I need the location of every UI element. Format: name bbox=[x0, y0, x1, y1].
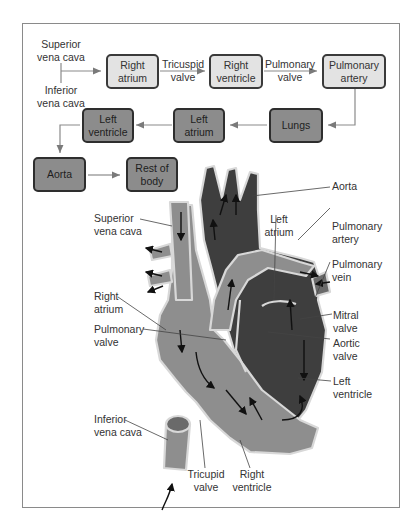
label-left-ventricle: Left ventricle bbox=[333, 375, 372, 400]
label-aortic-valve: Aortic valve bbox=[333, 337, 360, 362]
label-left-atrium: Left atrium bbox=[262, 213, 296, 238]
label-inferior-vena-cava: Inferior vena cava bbox=[94, 413, 142, 438]
label-pulmonary-artery: Pulmonary artery bbox=[332, 220, 382, 245]
label-right-ventricle: Right ventricle bbox=[230, 468, 274, 493]
label-superior-vena-cava: Superior vena cava bbox=[94, 212, 142, 237]
label-pulmonary-valve: Pulmonary valve bbox=[94, 323, 144, 348]
label-tricuspid-valve: Tricupid valve bbox=[184, 468, 228, 493]
label-pulmonary-vein: Pulmonary vein bbox=[332, 258, 382, 283]
label-mitral-valve: Mitral valve bbox=[333, 309, 359, 334]
label-aorta: Aorta bbox=[332, 180, 357, 193]
label-right-atrium: Right atrium bbox=[94, 290, 123, 315]
